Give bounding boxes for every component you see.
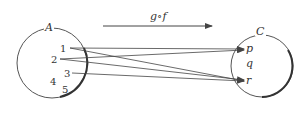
element-2: 2 xyxy=(51,54,57,65)
arrow-1-to-r xyxy=(70,48,244,81)
mapping-diagram: g∘f A 1 2 3 4 5 C p q r xyxy=(0,0,307,114)
composition-label: g∘f xyxy=(150,10,168,23)
element-q: q xyxy=(246,57,253,70)
set-a: A 1 2 3 4 5 xyxy=(17,21,87,98)
element-4: 4 xyxy=(50,76,56,87)
element-1: 1 xyxy=(60,43,66,54)
set-a-label: A xyxy=(44,21,53,34)
arrow-1-to-p xyxy=(70,48,244,49)
element-r: r xyxy=(246,74,252,87)
set-c-label: C xyxy=(256,25,265,38)
composition-arrow: g∘f xyxy=(103,10,212,26)
element-5: 5 xyxy=(62,84,68,95)
element-p: p xyxy=(246,42,253,55)
set-c: C p q r xyxy=(231,25,293,97)
element-3: 3 xyxy=(64,68,70,79)
